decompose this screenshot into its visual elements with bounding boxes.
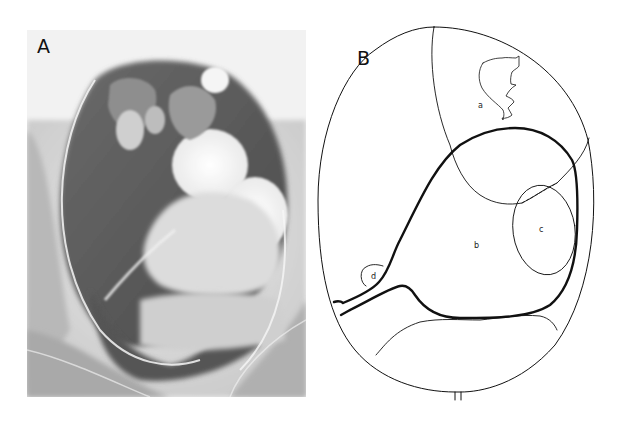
region-c-contour — [507, 181, 581, 279]
outer-contour — [318, 27, 594, 392]
line-diagram: a b c d — [0, 0, 618, 423]
region-label-b: b — [474, 241, 479, 250]
region-label-a: a — [478, 101, 483, 110]
region-label-d: d — [371, 272, 376, 281]
panel-label-b: B — [357, 47, 370, 69]
region-a-glyph — [479, 56, 519, 120]
region-label-c: c — [539, 225, 543, 234]
region-b-contour — [343, 128, 577, 318]
lower-region-contour — [376, 315, 557, 355]
region-a-boundary — [432, 27, 589, 204]
